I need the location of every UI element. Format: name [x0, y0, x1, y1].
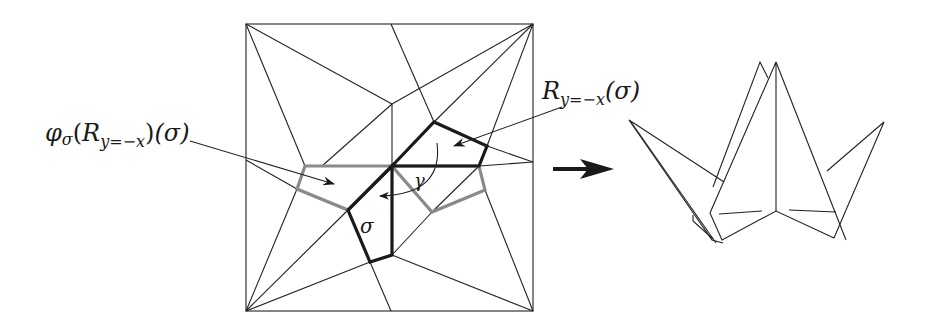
right-label: Ry=−x(σ)	[541, 77, 640, 109]
right-label-pointer-arrow	[454, 107, 562, 146]
phi-reflected-region	[297, 166, 392, 210]
crease-pattern-diagram: φσ(Ry=−x)(σ) Ry=−x(σ) σ γ	[0, 0, 931, 335]
gamma-label: γ	[414, 170, 425, 191]
right-arrow-icon	[553, 159, 614, 179]
sigma-label: σ	[360, 214, 375, 238]
crease-pattern	[246, 24, 533, 311]
R-y-neg-x-sigma-region	[392, 122, 487, 166]
origami-crane-illustration	[629, 62, 884, 243]
left-label-pointer-arrow	[190, 141, 334, 184]
left-label: φσ(Ry=−x)(σ)	[45, 119, 190, 151]
